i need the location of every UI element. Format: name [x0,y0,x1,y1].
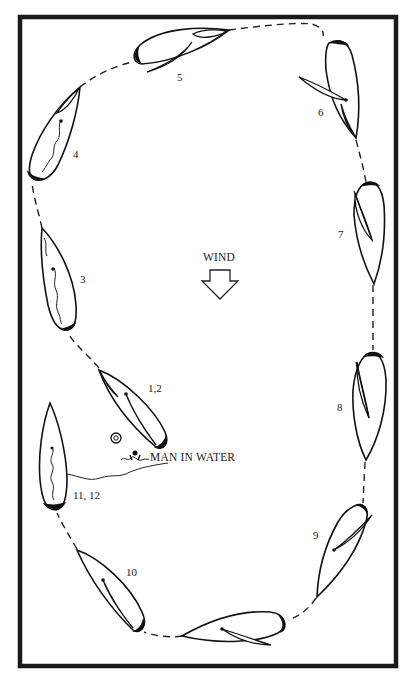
course-segment-4-5 [80,62,132,87]
boat-9: 9 [313,504,372,597]
boat-7: 7 [338,182,385,284]
course-segment-6-7 [356,140,366,182]
boat-label: 4 [73,148,79,160]
course-segment-8-9 [363,462,365,503]
life-ring-icon [111,433,121,443]
man-in-water-icon [121,451,149,461]
course-segment-bottom-10 [144,632,182,637]
man-in-water-label: MAN IN WATER [150,451,235,463]
boat-4: 4 [27,87,80,180]
course-segment-5-6 [229,23,323,36]
heaving-line [67,463,168,479]
boat-8: 8 [337,352,386,460]
boat-label: 8 [337,401,343,413]
boat-label: 7 [338,228,344,240]
boat-11-12: 11, 12 [39,403,100,510]
boat-label: 11, 12 [73,489,100,501]
course-segment-3-4 [32,182,42,228]
boat-label: 9 [313,529,319,541]
boat-6: 6 [299,40,359,138]
boat-label: 1,2 [148,382,162,394]
boat-10: 10 [77,550,145,632]
wind-indicator: WIND [202,251,238,299]
course-segment-9-bottom [288,598,316,620]
course-segment-1-3 [68,332,99,368]
boat-1-2: 1,2 [99,370,167,449]
man-overboard-diagram: 5 6 7 8 9 [0,0,413,681]
boat-label: 5 [177,71,183,83]
boat-label: 10 [126,566,138,578]
boat-label: 3 [80,273,86,285]
wind-label: WIND [203,251,235,263]
boat-bottom [182,612,286,645]
boat-3: 3 [41,228,86,331]
boat-5: 5 [134,28,229,83]
wind-arrow-icon [202,270,238,299]
boat-label: 6 [318,106,324,118]
course-segment-10-11 [57,513,77,549]
